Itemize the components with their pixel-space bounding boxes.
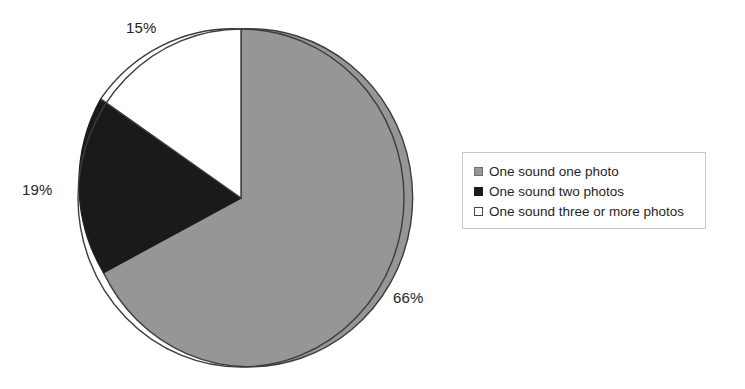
legend-item-one-sound-three-or-more-photos[interactable]: One sound three or more photos — [463, 201, 705, 221]
pie-data-label-slice-three: 15% — [126, 20, 156, 35]
chart-legend: One sound one photo One sound two photos… — [462, 152, 706, 229]
legend-item-one-sound-one-photo[interactable]: One sound one photo — [463, 161, 705, 181]
legend-item-label: One sound one photo — [489, 164, 619, 179]
white-swatch-icon — [474, 207, 483, 216]
black-swatch-icon — [474, 187, 483, 196]
legend-item-label: One sound two photos — [489, 184, 624, 199]
pie-data-label-slice-two: 19% — [22, 182, 52, 197]
legend-item-one-sound-two-photos[interactable]: One sound two photos — [463, 181, 705, 201]
gray-swatch-icon — [474, 167, 483, 176]
pie-plot-area: 15% 19% 66% — [0, 0, 460, 389]
legend-item-label: One sound three or more photos — [489, 204, 684, 219]
pie-chart-figure: 15% 19% 66% One sound one photo One soun… — [0, 0, 745, 389]
pie-data-label-slice-one: 66% — [393, 290, 423, 305]
pie-svg — [0, 0, 460, 389]
